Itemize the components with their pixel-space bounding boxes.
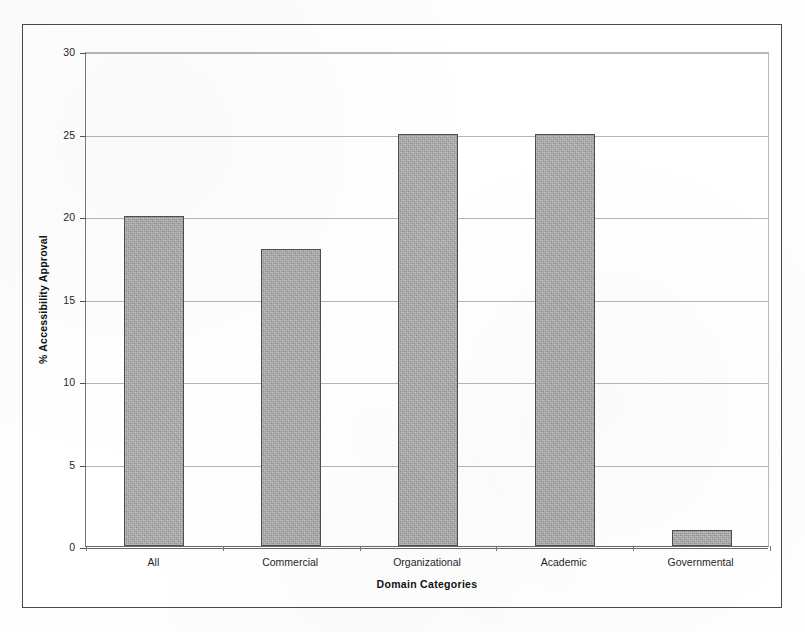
bar-governmental bbox=[672, 530, 732, 547]
x-category-label-academic: Academic bbox=[495, 556, 632, 568]
x-tick-mark bbox=[86, 546, 87, 551]
bar-commercial bbox=[261, 249, 321, 546]
x-tick-mark bbox=[360, 546, 361, 551]
y-tick-mark bbox=[80, 53, 86, 54]
bar-academic bbox=[535, 134, 595, 547]
x-category-label-organizational: Organizational bbox=[359, 556, 496, 568]
y-tick-label: 10 bbox=[49, 377, 75, 388]
y-gridline bbox=[86, 53, 768, 54]
y-tick-mark bbox=[80, 218, 86, 219]
x-category-label-governmental: Governmental bbox=[632, 556, 769, 568]
y-tick-mark bbox=[80, 301, 86, 302]
scanned-page-background: % Accessibility Approval Domain Categori… bbox=[0, 0, 805, 632]
y-tick-label: 20 bbox=[49, 212, 75, 223]
y-tick-label: 0 bbox=[49, 542, 75, 553]
y-tick-label: 25 bbox=[49, 130, 75, 141]
x-tick-mark bbox=[633, 546, 634, 551]
bar-organizational bbox=[398, 134, 458, 547]
bar-all bbox=[124, 216, 184, 546]
y-tick-mark bbox=[80, 136, 86, 137]
y-tick-label: 15 bbox=[49, 295, 75, 306]
y-tick-label: 30 bbox=[49, 47, 75, 58]
x-category-label-all: All bbox=[85, 556, 222, 568]
y-tick-mark bbox=[80, 383, 86, 384]
x-axis-title: Domain Categories bbox=[85, 578, 769, 590]
y-gridline bbox=[86, 548, 768, 549]
x-tick-mark bbox=[223, 546, 224, 551]
bar-chart-figure: % Accessibility Approval Domain Categori… bbox=[0, 0, 805, 632]
y-tick-mark bbox=[80, 466, 86, 467]
x-tick-mark bbox=[496, 546, 497, 551]
x-category-label-commercial: Commercial bbox=[222, 556, 359, 568]
plot-area bbox=[85, 52, 769, 547]
y-tick-label: 5 bbox=[49, 460, 75, 471]
x-tick-mark bbox=[770, 546, 771, 551]
